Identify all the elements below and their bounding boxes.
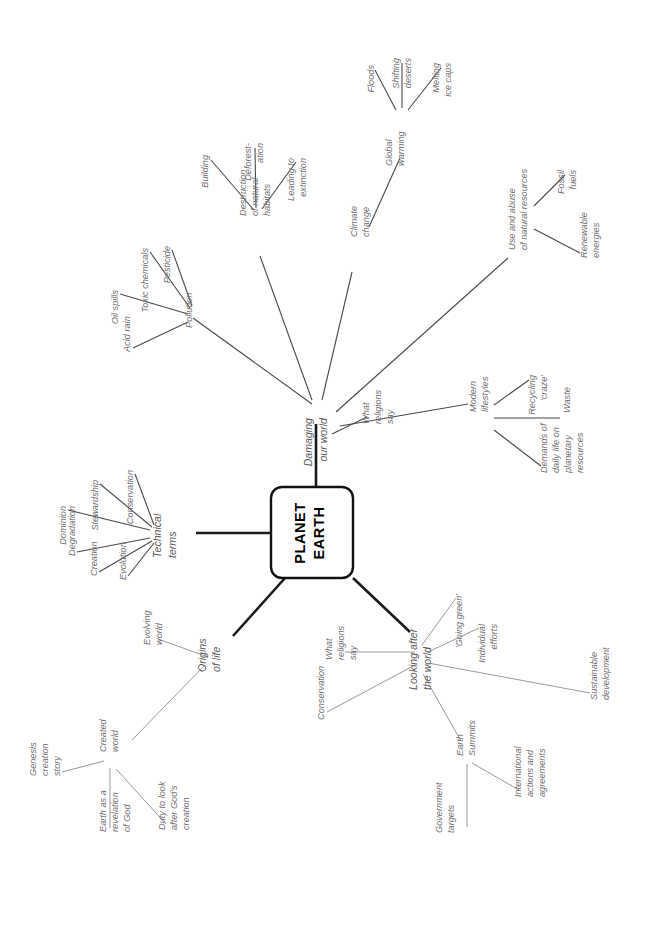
node-evolution[interactable]: Evolution bbox=[118, 542, 128, 580]
node-label: say bbox=[348, 644, 358, 660]
center-node[interactable]: PLANET EARTH bbox=[271, 487, 353, 578]
node-stewardship[interactable]: Stewardship bbox=[90, 480, 100, 531]
node-modern-lifestyles[interactable]: Modern lifestyles bbox=[468, 376, 490, 412]
node-toxic-chemicals[interactable]: Toxic chemicals bbox=[140, 248, 150, 313]
node-melting-ice-caps[interactable]: Melting ice caps bbox=[431, 62, 453, 97]
node-label: Climate bbox=[349, 206, 359, 237]
node-technical-terms[interactable]: Technical terms bbox=[151, 513, 178, 558]
center-node-label-line1: PLANET bbox=[292, 502, 308, 564]
node-label: Demands of bbox=[539, 422, 549, 473]
edge-looking-going-green bbox=[422, 598, 456, 645]
node-renewable-energies[interactable]: Renewable energies bbox=[579, 212, 601, 258]
node-recycling-craze[interactable]: Recycling 'craze' bbox=[527, 374, 549, 415]
node-label: What bbox=[361, 402, 371, 424]
node-label: terms bbox=[166, 531, 178, 558]
node-use-and-abuse-of-natural-resources[interactable]: Use and abuse of natural resources bbox=[507, 168, 529, 250]
node-label: of natural bbox=[250, 177, 260, 216]
node-evolving-world[interactable]: Evolving world bbox=[142, 609, 164, 645]
node-international-actions-and-agreements[interactable]: International actions and agreements bbox=[513, 745, 547, 797]
node-label: Evolution bbox=[118, 542, 128, 580]
node-label: What bbox=[324, 638, 334, 660]
node-label: habitats bbox=[262, 183, 272, 216]
edge-summits-international bbox=[472, 763, 519, 790]
node-label: creation bbox=[181, 797, 191, 830]
node-pollution[interactable]: Pollution bbox=[184, 293, 194, 328]
node-label: Leading to bbox=[286, 158, 296, 201]
edge-damaging-pollution bbox=[193, 318, 312, 404]
node-label: actions and bbox=[525, 749, 535, 797]
node-floods[interactable]: Floods bbox=[366, 65, 376, 93]
node-label: Duty to look bbox=[157, 781, 167, 830]
node-demands-of-daily-life[interactable]: Demands of daily life on planetary resou… bbox=[539, 422, 585, 474]
node-label: 'Going green' bbox=[454, 593, 464, 648]
node-conservation-technical[interactable]: Conservation bbox=[125, 470, 135, 524]
node-label: Renewable bbox=[579, 212, 589, 258]
node-degradation[interactable]: Degradation bbox=[67, 506, 77, 556]
node-label: revelation bbox=[110, 792, 120, 832]
edge-center-looking bbox=[353, 578, 410, 632]
node-label: of God bbox=[122, 804, 132, 832]
node-label: Modern bbox=[468, 381, 478, 412]
edge-modern-recycling bbox=[494, 380, 529, 405]
node-label: Creation bbox=[89, 541, 99, 576]
node-label: planetary bbox=[563, 434, 573, 474]
node-global-warming[interactable]: Global warming bbox=[384, 130, 406, 166]
node-climate-change[interactable]: Climate change bbox=[349, 206, 371, 237]
node-label: Summits bbox=[467, 720, 477, 756]
node-label: Global bbox=[384, 138, 394, 166]
node-created-world[interactable]: Created world bbox=[98, 718, 120, 752]
node-fossil-fuels[interactable]: Fossil fuels bbox=[556, 169, 578, 194]
node-label: 'craze' bbox=[539, 374, 549, 401]
node-earth-as-a-revelation-of-god[interactable]: Earth as a revelation of God bbox=[98, 790, 132, 832]
node-label: religions bbox=[336, 625, 346, 660]
node-label: of life bbox=[210, 647, 222, 672]
edge-origins-created bbox=[132, 665, 205, 740]
node-what-religions-say-damaging[interactable]: What religions say bbox=[361, 389, 395, 424]
node-label: agreements bbox=[537, 748, 547, 797]
node-sustainable-development[interactable]: Sustainable development bbox=[589, 647, 611, 700]
node-label: Evolving bbox=[142, 609, 152, 645]
node-label: of natural resources bbox=[519, 168, 529, 250]
node-origins-of-life[interactable]: Origins of life bbox=[196, 638, 222, 672]
node-duty-to-look-after-gods-creation[interactable]: Duty to look after God's creation bbox=[157, 781, 191, 830]
node-acid-rain[interactable]: Acid rain bbox=[122, 316, 132, 353]
node-label: Conservation bbox=[125, 470, 135, 524]
node-label: Waste bbox=[562, 387, 572, 413]
node-label: deserts bbox=[403, 58, 413, 89]
node-earth-summits[interactable]: Earth Summits bbox=[455, 720, 477, 756]
node-genesis-creation-story[interactable]: Genesis creation story bbox=[28, 742, 62, 776]
node-label: Individual bbox=[477, 623, 487, 663]
node-oil-spills[interactable]: Oil spills bbox=[110, 290, 120, 325]
node-label: religions bbox=[373, 389, 383, 424]
node-label: resources bbox=[575, 432, 585, 473]
node-label: world bbox=[154, 622, 164, 645]
node-label: our world bbox=[317, 417, 329, 462]
node-label: Shifting bbox=[391, 57, 401, 89]
node-deforestation[interactable]: Deforest- ation bbox=[243, 143, 265, 181]
mindmap-canvas: PLANET EARTH Damaging our world Pollutio… bbox=[0, 0, 656, 933]
edge-modern-demands bbox=[494, 430, 541, 466]
edge-tt-degradation bbox=[77, 538, 150, 552]
edge-created-genesis bbox=[62, 761, 104, 772]
node-creation[interactable]: Creation bbox=[89, 541, 99, 576]
node-label: the world bbox=[421, 646, 433, 690]
node-looking-after-the-world[interactable]: Looking after the world bbox=[407, 628, 433, 690]
node-waste[interactable]: Waste bbox=[562, 387, 572, 413]
edge-tt-dominion bbox=[68, 510, 150, 530]
node-label: Building bbox=[200, 154, 210, 188]
node-building[interactable]: Building bbox=[200, 154, 210, 188]
node-pesticide[interactable]: Pesticide bbox=[162, 246, 172, 283]
edge-pollution-oil-spills bbox=[120, 294, 188, 314]
node-going-green[interactable]: 'Going green' bbox=[454, 593, 464, 648]
node-government-targets[interactable]: Government targets bbox=[434, 782, 456, 833]
node-what-religions-say-looking[interactable]: What religions say bbox=[324, 625, 358, 660]
node-label: Government bbox=[434, 782, 444, 833]
node-label: ation bbox=[255, 143, 265, 163]
node-label: Floods bbox=[366, 65, 376, 93]
node-leading-to-extinction[interactable]: Leading to extinction bbox=[286, 158, 308, 201]
node-label: Looking after bbox=[407, 628, 419, 690]
node-conservation-looking[interactable]: Conservation bbox=[316, 666, 326, 720]
mindmap-svg: PLANET EARTH Damaging our world Pollutio… bbox=[0, 0, 656, 933]
edge-damaging-climate bbox=[322, 272, 352, 400]
node-individual-efforts[interactable]: Individual efforts bbox=[477, 623, 499, 663]
